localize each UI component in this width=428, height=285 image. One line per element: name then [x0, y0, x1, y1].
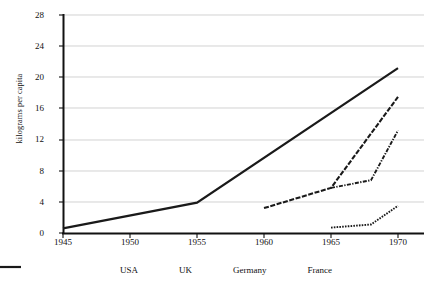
line-dotted-icon: [284, 266, 305, 275]
axis-lines: [62, 14, 424, 234]
line-chart: kilograms per capita 28 24 20 16 12 8 4 …: [0, 0, 428, 285]
line-solid-icon: [96, 266, 117, 275]
legend-item-germany[interactable]: Germany: [209, 266, 267, 275]
legend-item-usa[interactable]: USA: [96, 266, 138, 275]
line-dashdot-icon: [209, 266, 230, 275]
legend-item-france[interactable]: France: [284, 266, 333, 275]
axis-ticks: [59, 15, 398, 238]
legend-label-uk: UK: [179, 266, 192, 275]
line-dashed-icon: [155, 266, 176, 275]
plot-area: [0, 0, 428, 285]
series-line-germany: [331, 130, 398, 188]
gridlines: [63, 15, 424, 202]
series-line-usa: [63, 68, 398, 228]
legend-item-uk[interactable]: UK: [155, 266, 192, 275]
legend-label-france: France: [308, 266, 333, 275]
legend-label-usa: USA: [120, 266, 138, 275]
chart-legend: USA UK Germany France: [0, 262, 428, 278]
legend-label-germany: Germany: [233, 266, 267, 275]
series-line-france: [331, 206, 398, 228]
